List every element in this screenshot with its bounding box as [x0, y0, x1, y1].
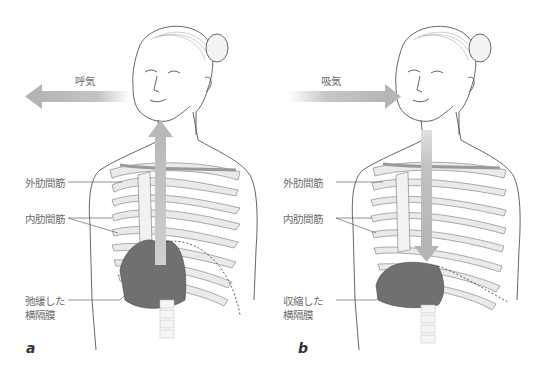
panel-exhalation: 呼気 外肋間筋 内肋間筋 弛緩した 横隔膜 a — [0, 0, 267, 373]
relaxed-diaphragm-label-line1: 弛緩した — [25, 294, 65, 308]
contracted-diaphragm-label-line1: 収縮した — [283, 294, 323, 308]
downward-airflow-arrow — [414, 130, 439, 262]
exhale-label: 呼気 — [75, 74, 95, 88]
internal-intercostal-label: 内肋間筋 — [25, 212, 65, 226]
inhale-arrow-icon — [288, 84, 401, 109]
contracted-diaphragm-label-line2: 横隔膜 — [283, 308, 313, 322]
internal-intercostal-label: 内肋間筋 — [283, 212, 323, 226]
external-intercostal-label: 外肋間筋 — [25, 176, 65, 190]
panel-letter-b: b — [298, 340, 308, 356]
external-intercostal-label: 外肋間筋 — [283, 176, 323, 190]
diaphragm-relaxed — [120, 240, 186, 308]
panel-letter-a: a — [26, 340, 35, 356]
relaxed-diaphragm-label-line2: 横隔膜 — [25, 308, 55, 322]
inhale-label: 吸気 — [321, 74, 341, 88]
panel-inhalation: 吸気 外肋間筋 内肋間筋 収縮した 横隔膜 b — [268, 0, 535, 373]
